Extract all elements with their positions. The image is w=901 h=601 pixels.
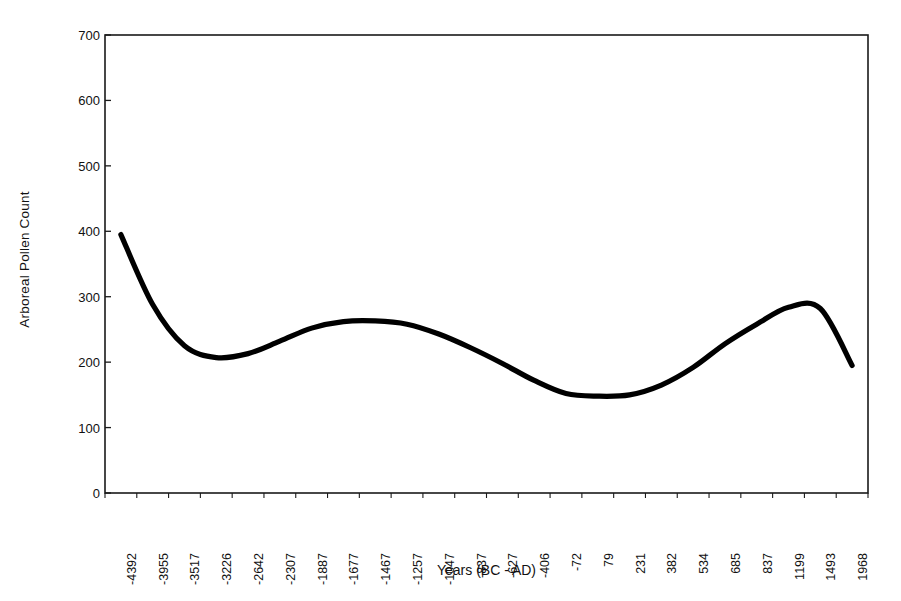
data-series-line <box>121 235 852 397</box>
x-axis-title: Years (BC - AD) <box>105 562 868 578</box>
y-axis-ticks <box>105 35 111 493</box>
x-axis-tick-labels: -4392-3955-3517-3226-2642-2307-1887-1677… <box>105 497 868 559</box>
plot-frame <box>105 35 868 493</box>
chart-figure: Arboreal Pollen Count 700600500400300200… <box>0 0 901 601</box>
